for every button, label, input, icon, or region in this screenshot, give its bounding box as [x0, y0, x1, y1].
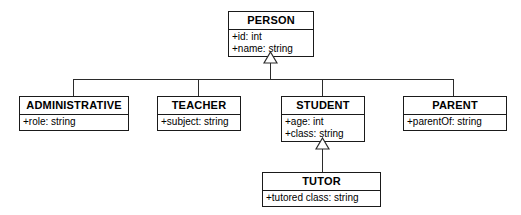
uml-class-name-person: PERSON — [229, 12, 313, 30]
uml-attribute: +age: int — [285, 116, 364, 128]
connector-person-horizontal-bar — [73, 79, 454, 80]
uml-class-name-administrative: ADMINISTRATIVE — [20, 97, 128, 115]
connector-drop-teacher — [198, 79, 199, 97]
connector-drop-student — [322, 79, 323, 97]
uml-attribute: +parentOf: string — [407, 116, 506, 128]
uml-class-student[interactable]: STUDENT +age: int +class: string — [281, 96, 365, 142]
uml-class-diagram-canvas: PERSON +id: int +name: string ADMINISTRA… — [0, 0, 521, 215]
uml-attribute: +role: string — [23, 116, 128, 128]
connector-drop-parent — [453, 79, 454, 97]
inheritance-triangle-student — [315, 137, 330, 150]
uml-class-name-teacher: TEACHER — [158, 97, 240, 115]
uml-attribute: +subject: string — [161, 116, 240, 128]
uml-class-parent[interactable]: PARENT +parentOf: string — [403, 96, 507, 131]
uml-class-teacher[interactable]: TEACHER +subject: string — [157, 96, 241, 131]
inheritance-triangle-person — [263, 51, 278, 64]
uml-class-tutor[interactable]: TUTOR +tutored class: string — [262, 172, 381, 207]
uml-attributes-tutor: +tutored class: string — [263, 191, 380, 206]
uml-attribute: +tutored class: string — [266, 192, 380, 204]
uml-class-name-parent: PARENT — [404, 97, 506, 115]
uml-class-name-student: STUDENT — [282, 97, 364, 115]
connector-person-stem — [270, 63, 271, 80]
connector-student-tutor — [322, 149, 323, 173]
uml-attributes-parent: +parentOf: string — [404, 115, 506, 130]
uml-attributes-teacher: +subject: string — [158, 115, 240, 130]
uml-attribute: +id: int — [232, 31, 313, 43]
uml-attributes-administrative: +role: string — [20, 115, 128, 130]
uml-class-name-tutor: TUTOR — [263, 173, 380, 191]
connector-drop-administrative — [73, 79, 74, 97]
uml-class-administrative[interactable]: ADMINISTRATIVE +role: string — [19, 96, 129, 131]
